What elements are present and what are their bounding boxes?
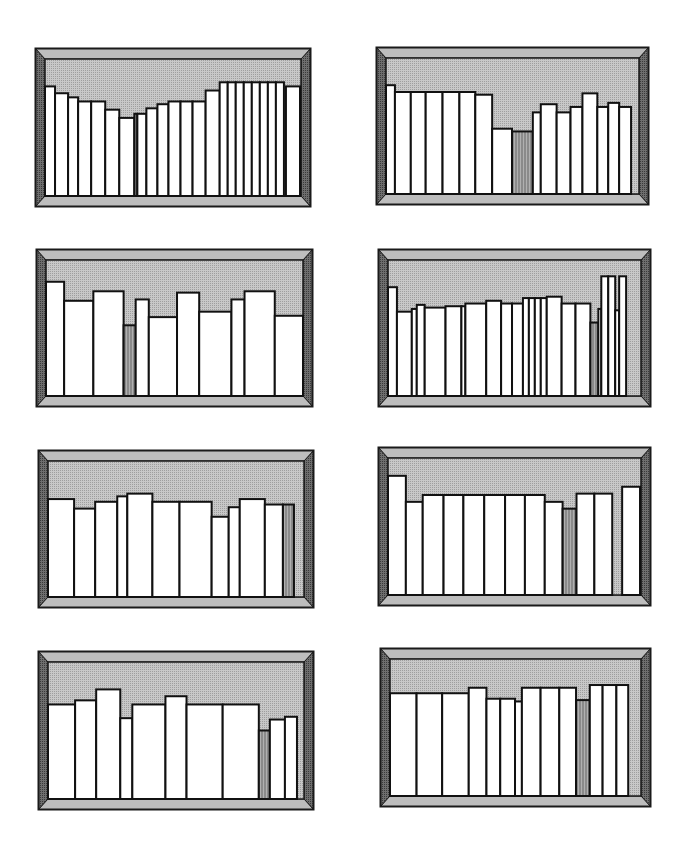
book (541, 688, 560, 796)
book (395, 92, 411, 194)
book (55, 93, 68, 196)
book (545, 502, 563, 595)
book (616, 685, 628, 796)
book (500, 699, 515, 796)
highlighted-book (590, 323, 598, 396)
book (91, 101, 105, 196)
book (275, 316, 303, 396)
book (177, 293, 199, 396)
book (601, 276, 608, 396)
book (75, 700, 96, 799)
book (446, 306, 462, 396)
book (501, 304, 512, 396)
highlighted-book (283, 505, 294, 597)
book (443, 92, 460, 194)
book (252, 82, 260, 196)
book (557, 112, 571, 194)
book (93, 291, 123, 396)
book (426, 92, 443, 194)
book (64, 301, 93, 396)
book (597, 107, 608, 194)
book (475, 95, 492, 194)
book (486, 699, 500, 796)
book (95, 502, 117, 597)
book (136, 299, 149, 396)
book (444, 495, 464, 595)
book (260, 82, 268, 196)
book (181, 101, 193, 196)
highlighted-book (512, 131, 533, 194)
book (120, 718, 132, 799)
book (525, 495, 545, 595)
bookshelf-6 (378, 447, 651, 606)
book (212, 517, 229, 597)
book (229, 507, 240, 597)
book (515, 701, 522, 796)
book (411, 92, 426, 194)
book (96, 689, 120, 799)
book (244, 82, 252, 196)
book (137, 114, 146, 196)
book (265, 505, 283, 597)
bookshelf-5 (38, 450, 314, 608)
book (486, 301, 501, 396)
book (193, 101, 206, 196)
books-row (48, 689, 297, 799)
book (622, 487, 640, 595)
book (417, 693, 443, 796)
book (469, 688, 487, 796)
book (68, 97, 78, 196)
book (465, 304, 486, 396)
book (231, 299, 244, 396)
book (105, 110, 119, 196)
book (603, 685, 617, 796)
book (559, 688, 576, 796)
book (577, 494, 595, 595)
book (48, 499, 74, 597)
book (149, 317, 177, 396)
highlighted-book (124, 325, 136, 396)
book (199, 312, 231, 396)
book (117, 496, 127, 597)
book (406, 502, 423, 595)
bookshelf-1 (35, 48, 311, 207)
book (157, 104, 168, 196)
highlighted-book (259, 731, 270, 800)
book (386, 85, 395, 194)
book (423, 495, 444, 595)
book (582, 93, 597, 194)
book (268, 82, 276, 196)
book (533, 112, 541, 194)
book (484, 495, 505, 595)
book (168, 101, 180, 196)
book (608, 276, 615, 396)
books-row (48, 494, 294, 597)
book (459, 92, 475, 194)
book (78, 101, 91, 196)
book (236, 82, 244, 196)
book (571, 107, 583, 194)
book (245, 291, 275, 396)
book (286, 86, 300, 196)
book (165, 696, 186, 799)
book (223, 704, 259, 799)
book (180, 502, 212, 597)
book (562, 304, 576, 396)
book (127, 494, 152, 597)
book (425, 308, 446, 396)
book (228, 82, 236, 196)
book (285, 717, 297, 799)
book (576, 304, 591, 396)
bookshelf-2 (376, 47, 649, 205)
books-row (390, 685, 628, 796)
book (442, 693, 469, 796)
book (45, 86, 55, 196)
book (608, 103, 619, 194)
book (132, 704, 165, 799)
book (388, 287, 397, 396)
book (619, 107, 631, 194)
book (594, 494, 612, 595)
book (417, 305, 425, 396)
highlighted-book (563, 509, 577, 595)
book (146, 108, 157, 196)
